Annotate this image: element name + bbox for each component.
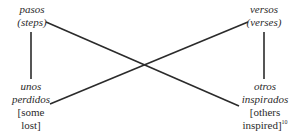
label-english: (verses) (238, 16, 290, 29)
label-english: (steps) (8, 16, 56, 29)
label-english-1: [others (234, 106, 296, 119)
label-spanish: pasos (8, 3, 56, 16)
label-spanish-1: unos (4, 80, 58, 93)
node-unos-perdidos: unos perdidos [some lost] (4, 80, 58, 132)
label-spanish-2: perdidos (4, 93, 58, 106)
label-english-2-wrap: inspired]10 (234, 119, 296, 132)
edge-versos-perdidos (50, 22, 248, 104)
node-versos: versos (verses) (238, 3, 290, 29)
node-pasos: pasos (steps) (8, 3, 56, 29)
label-spanish-2: inspirados (234, 93, 296, 106)
footnote-marker: 10 (282, 119, 288, 125)
label-english-2: lost] (4, 119, 58, 132)
label-english-2: inspired] (242, 119, 281, 131)
label-spanish-1: otros (234, 80, 296, 93)
chiasmus-diagram: pasos (steps) versos (verses) unos perdi… (0, 0, 297, 140)
node-otros-inspirados: otros inspirados [others inspired]10 (234, 80, 296, 132)
label-spanish: versos (238, 3, 290, 16)
label-english-1: [some (4, 106, 58, 119)
